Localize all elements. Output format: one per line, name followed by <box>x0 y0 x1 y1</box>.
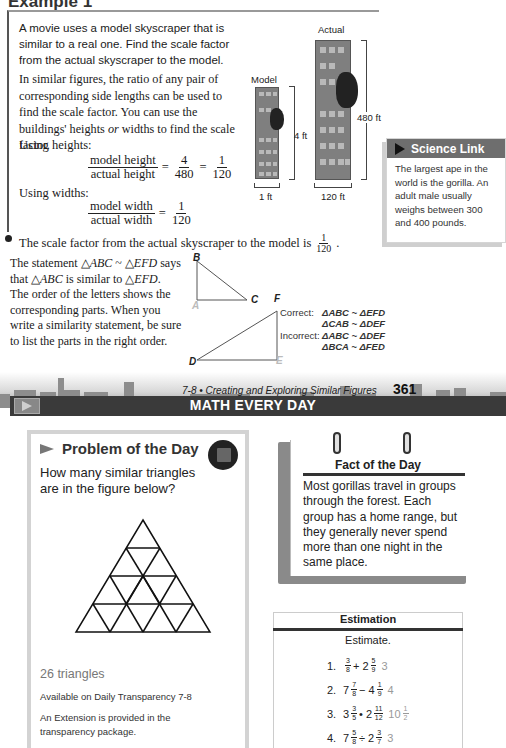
model-label: Model <box>251 74 277 85</box>
page-number: 361 <box>393 381 416 397</box>
vertex-b-label: B <box>193 252 200 263</box>
correct-statement-2: ΔCAB ~ ΔDEF <box>322 318 385 329</box>
using-widths-label: Using widths: <box>19 186 89 201</box>
arrow-icon <box>395 143 405 155</box>
example-conclusion: The scale factor from the actual skyscra… <box>19 233 339 254</box>
widths-equation: model widthactual width = 1120 <box>88 200 193 227</box>
footer-section-title: 7-8 • Creating and Exploring Similar Fig… <box>182 385 377 396</box>
science-link-header: Science Link <box>387 139 505 158</box>
similar-triangles-diagram <box>190 255 290 365</box>
estimation-title: Estimation <box>273 613 463 625</box>
model-gorilla-image <box>270 108 284 130</box>
extension-note: An Extension is provided in the transpar… <box>40 711 210 739</box>
example-intro: A movie uses a model skyscraper that is … <box>19 20 239 68</box>
actual-height-bracket <box>361 40 367 180</box>
vertex-e-label: E <box>276 355 283 366</box>
transparency-icon <box>208 440 238 470</box>
problem-question: How many similar triangles are in the fi… <box>40 465 210 497</box>
actual-building <box>315 40 351 180</box>
actual-label: Actual <box>318 24 344 35</box>
math-every-day-title: MATH EVERY DAY <box>0 397 506 413</box>
science-link-title: Science Link <box>411 142 484 156</box>
estimation-item-3: 3. 3 35 • 2 1112 10 12 <box>327 705 409 722</box>
triangle-grid-figure <box>74 518 214 638</box>
model-width-label: 1 ft <box>259 191 272 202</box>
actual-width-bracket <box>314 183 352 188</box>
similarity-explanation: The statement △ABC ~ △EFD says that △ABC… <box>10 256 182 349</box>
estimation-instruction: Estimate. <box>273 634 463 646</box>
actual-width-label: 120 ft <box>321 191 345 202</box>
actual-gorilla-image <box>336 72 358 108</box>
problem-answer: 26 triangles <box>40 667 105 681</box>
model-building <box>255 87 279 179</box>
incorrect-label: Incorrect: <box>280 330 320 341</box>
arrow-icon <box>40 444 54 454</box>
actual-height-label: 480 ft <box>357 112 381 123</box>
estimation-box <box>273 612 463 748</box>
vertex-a-label: A <box>192 300 199 311</box>
heights-equation: model heightactual height = 4480 = 1120 <box>88 154 233 181</box>
example-end-bullet <box>5 235 12 242</box>
science-link-box: Science Link The largest ape in the worl… <box>386 138 506 243</box>
vertex-f-label: F <box>274 293 280 304</box>
estimation-item-4: 4. 7 58 ÷ 2 37 3 <box>327 729 393 746</box>
binder-ring-icon <box>333 432 341 454</box>
fact-title-rule <box>303 473 465 476</box>
science-link-body: The largest ape in the world is the gori… <box>387 158 505 230</box>
estimation-item-2: 2. 7 78 − 4 19 4 <box>327 681 394 698</box>
correct-statement-1: ΔABC ~ ΔEFD <box>322 307 385 318</box>
binder-ring-icon <box>403 432 411 454</box>
using-heights-label: Using heights: <box>19 138 92 153</box>
incorrect-statement-1: ΔABC ~ ΔDEF <box>322 330 385 341</box>
vertex-c-label: C <box>251 294 258 305</box>
vertex-d-label: D <box>189 356 196 367</box>
incorrect-statement-2: ΔBCA ~ ΔFED <box>322 341 385 352</box>
estimation-title-rule <box>273 628 463 631</box>
problem-of-the-day-title: Problem of the Day <box>62 440 199 457</box>
example-top-rule <box>239 10 379 12</box>
problem-of-the-day-header: Problem of the Day <box>40 440 199 457</box>
fact-of-the-day-body: Most gorillas travel in groups through t… <box>303 479 465 571</box>
correct-label: Correct: <box>280 307 314 318</box>
estimation-item-1: 1. 38 + 2 59 3 <box>327 657 388 674</box>
model-width-bracket <box>254 183 280 188</box>
transparency-note: Available on Daily Transparency 7-8 <box>40 691 192 702</box>
fact-of-the-day-title: Fact of the Day <box>290 458 466 472</box>
model-height-label: 4 ft <box>294 130 307 141</box>
